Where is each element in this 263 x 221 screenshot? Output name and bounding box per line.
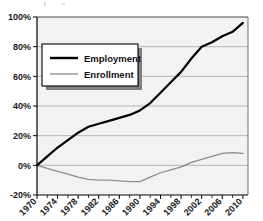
- chart-legend: Employment Enrollment: [42, 44, 142, 90]
- y-tick-label: 100%: [8, 12, 31, 22]
- legend-label-employment: Employment: [84, 53, 142, 64]
- y-axis: -20%0%20%40%60%80%100%: [8, 12, 37, 200]
- legend-box: [42, 44, 138, 86]
- x-tick-label: 2002: [182, 196, 203, 217]
- x-tick-label: 1978: [58, 196, 79, 217]
- x-tick-label: 2010: [223, 196, 244, 217]
- x-tick-label: 1994: [141, 196, 162, 217]
- x-tick-label: 1974: [38, 196, 59, 217]
- top-edge-artifact: [44, 2, 65, 6]
- chart-container: -20%0%20%40%60%80%100% 19701974197819821…: [0, 0, 263, 221]
- x-tick-label: 1986: [100, 196, 121, 217]
- x-tick-label: 1998: [161, 196, 182, 217]
- x-tick-label: 1990: [120, 196, 141, 217]
- line-chart: -20%0%20%40%60%80%100% 19701974197819821…: [0, 0, 263, 221]
- y-tick-label: 80%: [13, 42, 31, 52]
- x-axis-ticks: [37, 195, 243, 199]
- y-tick-label: 60%: [13, 72, 31, 82]
- x-tick-label: 2006: [202, 196, 223, 217]
- y-tick-label: 40%: [13, 101, 31, 111]
- x-axis-labels: 1970197419781982198619901994199820022006…: [17, 196, 244, 217]
- x-tick-label: 1982: [79, 196, 100, 217]
- y-tick-label: 20%: [13, 131, 31, 141]
- legend-label-enrollment: Enrollment: [84, 69, 134, 80]
- y-tick-label: 0%: [18, 161, 31, 171]
